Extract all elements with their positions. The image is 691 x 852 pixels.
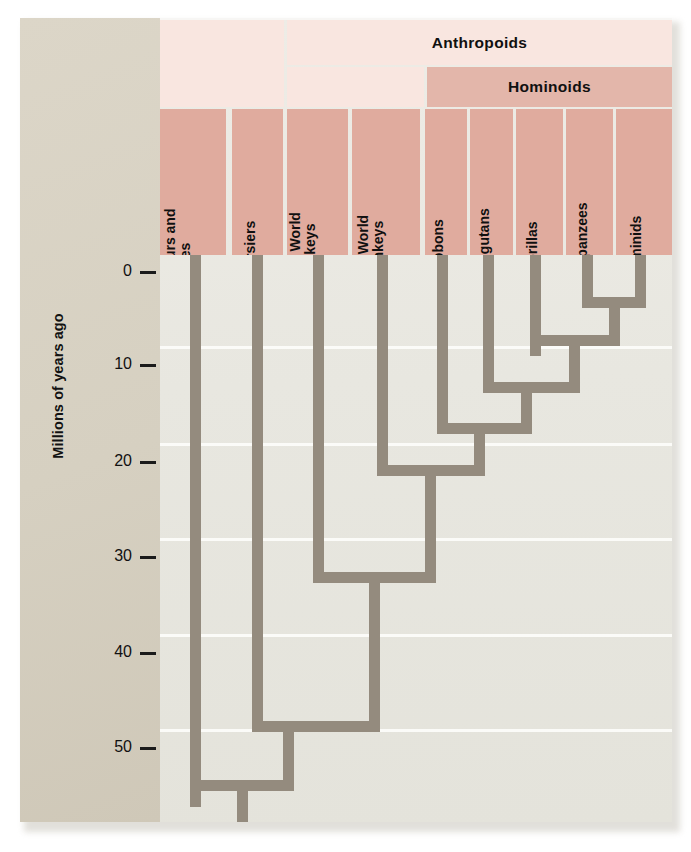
branch-tip-tarsiers — [252, 255, 263, 730]
branch-node-chimp-hominid-stem — [609, 297, 620, 340]
branch-tip-chimpanzees — [582, 255, 593, 302]
branch-node-haplorhines-bar — [252, 721, 380, 732]
taxon-label-hominids: Hominids — [629, 216, 644, 255]
gridline-50 — [160, 729, 672, 732]
y-tick-mark-10 — [140, 364, 156, 367]
taxon-label-gorillas: Gorillas — [525, 222, 540, 255]
branch-node-catarrhines-stem — [425, 465, 436, 578]
taxon-label-tarsiers: Tarsiers — [243, 221, 258, 255]
taxon-column-gorillas[interactable]: Gorillas — [516, 109, 563, 255]
y-axis-title: Millions of years ago — [50, 286, 66, 486]
taxon-column-new-world-monkeys[interactable]: New Worldmonkeys — [287, 109, 348, 255]
y-tick-mark-0 — [140, 271, 156, 274]
y-tick-label-40: 40 — [92, 643, 132, 661]
phylogenetic-tree-figure: Millions of years ago 0 10 20 30 40 50 A… — [0, 0, 691, 852]
branch-tip-orangutans — [483, 255, 494, 393]
gridline-10 — [160, 346, 672, 349]
taxon-column-orangutans[interactable]: Orangutans — [470, 109, 513, 255]
y-tick-mark-40 — [140, 652, 156, 655]
branch-tip-lemurs — [190, 255, 201, 807]
clade-band-anthropoids: Anthropoids — [287, 20, 672, 65]
branch-node-primates-root-stem — [237, 780, 248, 822]
clade-filler-lemurs — [160, 20, 284, 107]
taxon-column-lemurs[interactable]: Lemurs andlorises — [160, 109, 226, 255]
y-tick-mark-30 — [140, 556, 156, 559]
taxon-label-gibbons: Gibbons — [431, 220, 446, 255]
gridline-40 — [160, 634, 672, 637]
clade-band-hominoids: Hominoids — [427, 67, 672, 107]
axis-panel: Millions of years ago 0 10 20 30 40 50 — [20, 18, 160, 822]
taxon-label-chimpanzees: Chimpanzees — [575, 203, 590, 255]
y-tick-label-20: 20 — [92, 452, 132, 470]
y-tick-label-10: 10 — [92, 355, 132, 373]
clade-label-hominoids: Hominoids — [508, 78, 591, 96]
branch-node-hominoids-stem — [474, 423, 485, 470]
gridline-30 — [160, 538, 672, 541]
branch-node-haplorhines-stem — [283, 721, 294, 786]
y-tick-mark-20 — [140, 461, 156, 464]
y-tick-label-50: 50 — [92, 738, 132, 756]
taxon-label-old-world-monkeys: Old Worldmonkeys — [356, 215, 386, 255]
y-tick-label-0: 0 — [92, 262, 132, 280]
taxon-column-gibbons[interactable]: Gibbons — [425, 109, 467, 255]
taxon-label-new-world-monkeys: New Worldmonkeys — [287, 212, 317, 255]
taxon-column-hominids[interactable]: Hominids — [616, 109, 672, 255]
clade-label-anthropoids: Anthropoids — [432, 34, 527, 52]
taxon-column-chimpanzees[interactable]: Chimpanzees — [566, 109, 613, 255]
y-tick-label-30: 30 — [92, 547, 132, 565]
branch-tip-old-world-monkeys — [377, 255, 388, 475]
taxon-label-lemurs: Lemurs andlorises — [163, 208, 193, 255]
clade-filler-monkeys — [287, 67, 424, 107]
branch-tip-new-world-monkeys — [313, 255, 324, 583]
branch-node-anthropoids-stem — [369, 572, 380, 727]
taxon-label-orangutans: Orangutans — [477, 209, 492, 255]
branch-node-great-apes-stem — [521, 382, 532, 428]
taxon-column-tarsiers[interactable]: Tarsiers — [232, 109, 283, 255]
cladogram-plot-area: Anthropoids Hominoids Lemurs andlorises … — [160, 18, 672, 822]
branch-tip-hominids — [635, 255, 646, 302]
y-tick-mark-50 — [140, 747, 156, 750]
branch-node-african-apes-stem — [569, 335, 580, 382]
gridline-20 — [160, 443, 672, 446]
branch-tip-gibbons — [437, 255, 448, 431]
taxon-column-old-world-monkeys[interactable]: Old Worldmonkeys — [352, 109, 420, 255]
